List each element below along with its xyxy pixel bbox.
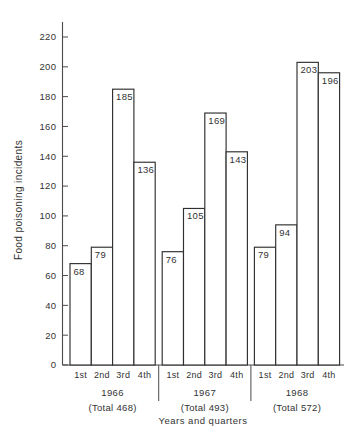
quarter-label: 2nd xyxy=(186,370,202,380)
chart-canvas: 020406080100120140160180200220 687918513… xyxy=(0,0,354,443)
group-total-label: (Total 572) xyxy=(273,402,321,413)
bar-value-label: 79 xyxy=(95,249,106,260)
bar xyxy=(70,264,91,365)
y-tick-label: 180 xyxy=(39,91,56,102)
bar xyxy=(318,73,339,365)
y-tick-label: 120 xyxy=(39,180,56,191)
bar-value-label: 185 xyxy=(116,91,133,102)
bar-value-label: 203 xyxy=(301,64,318,75)
bar xyxy=(297,62,318,365)
bar-value-label: 94 xyxy=(279,227,290,238)
quarter-label: 1st xyxy=(166,370,179,380)
bar-value-label: 196 xyxy=(322,75,339,86)
bar xyxy=(184,208,205,365)
y-axis-title: Food poisoning incidents xyxy=(13,140,24,260)
y-tick-label: 80 xyxy=(45,240,56,251)
y-tick-label: 20 xyxy=(45,330,56,341)
bar-value-label: 105 xyxy=(187,210,204,221)
bar xyxy=(254,247,275,365)
bar-value-label: 169 xyxy=(208,115,225,126)
quarter-label: 4th xyxy=(138,370,151,380)
bar xyxy=(226,152,247,365)
bar-chart: 020406080100120140160180200220 687918513… xyxy=(0,0,354,443)
bar xyxy=(162,252,183,365)
quarter-label: 4th xyxy=(322,370,335,380)
bar xyxy=(276,225,297,365)
y-tick-label: 40 xyxy=(45,300,56,311)
quarter-label: 1st xyxy=(74,370,87,380)
y-tick-label: 200 xyxy=(39,61,56,72)
group-year-label: 1966 xyxy=(101,387,124,398)
bar xyxy=(205,113,226,365)
bar-value-label: 79 xyxy=(258,249,269,260)
group-total-label: (Total 493) xyxy=(181,402,229,413)
bar xyxy=(134,162,155,365)
quarter-label: 2nd xyxy=(278,370,294,380)
y-tick-label: 160 xyxy=(39,121,56,132)
bar-value-label: 136 xyxy=(137,164,154,175)
group-total-label: (Total 468) xyxy=(89,402,137,413)
bar-value-label: 76 xyxy=(166,254,177,265)
quarter-label: 3rd xyxy=(301,370,315,380)
bar-value-label: 143 xyxy=(230,154,247,165)
quarter-label: 1st xyxy=(259,370,272,380)
y-tick-label: 60 xyxy=(45,270,56,281)
x-axis-title: Years and quarters xyxy=(159,415,248,426)
bar xyxy=(113,89,134,365)
y-tick-label: 140 xyxy=(39,151,56,162)
quarter-label: 3rd xyxy=(116,370,130,380)
bar-value-label: 68 xyxy=(74,266,85,277)
bar xyxy=(91,247,112,365)
y-tick-label: 220 xyxy=(39,31,56,42)
y-tick-label: 100 xyxy=(39,210,56,221)
quarter-label: 4th xyxy=(230,370,243,380)
y-tick-label: 0 xyxy=(51,359,57,370)
group-year-label: 1967 xyxy=(193,387,216,398)
quarter-label: 2nd xyxy=(94,370,110,380)
quarter-label: 3rd xyxy=(208,370,222,380)
group-year-label: 1968 xyxy=(286,387,309,398)
